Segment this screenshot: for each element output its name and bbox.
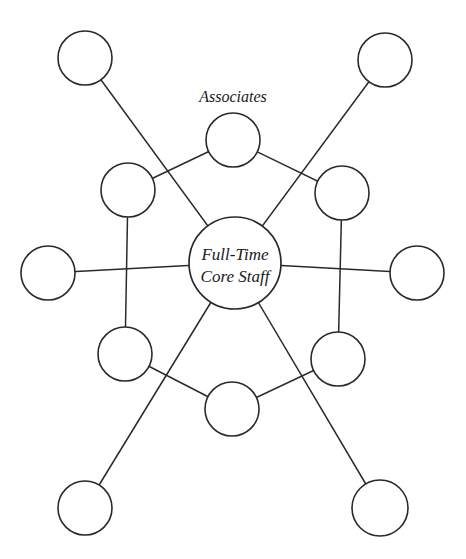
associates-network-diagram: Associates Full-Time Core Staff: [0, 0, 466, 559]
node-assoc-upper-right: [315, 166, 369, 220]
node-outer-top-right: [358, 33, 412, 87]
node-outer-top-left: [58, 31, 112, 85]
node-assoc-lower-left: [98, 327, 152, 381]
associates-label: Associates: [198, 88, 267, 105]
node-assoc-lower-right: [311, 332, 365, 386]
node-assoc-bottom: [205, 382, 259, 436]
node-outer-left: [21, 246, 75, 300]
node-outer-right: [390, 246, 444, 300]
node-assoc-top: [206, 113, 260, 167]
node-outer-bottom-right: [352, 480, 408, 536]
core-label-line1: Full-Time: [200, 245, 269, 264]
core-label-line2: Core Staff: [201, 267, 272, 286]
node-outer-bottom-left: [58, 481, 112, 535]
node-assoc-upper-left: [101, 163, 155, 217]
